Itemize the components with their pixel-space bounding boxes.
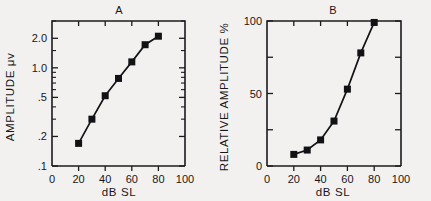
data-point-marker (371, 19, 378, 26)
panel-a-x-tick-label: 40 (99, 173, 111, 185)
data-point-marker (331, 118, 338, 125)
panel-b-x-axis-title: dB SL (316, 186, 350, 198)
panel-b-x-tick-labels: 020406080100 (264, 173, 410, 185)
panel-a-tickmarks (52, 21, 185, 171)
panel-b-y-axis-title: RELATIVE AMPLITUDE % (218, 23, 230, 172)
panel-b-y-tick-labels: 050100 (244, 15, 262, 172)
panel-a-x-tick-label: 0 (49, 173, 55, 185)
panel-a-y-axis-title: AMPLITUDE μv (4, 53, 16, 142)
panel-a-title: A (115, 4, 123, 16)
data-point-marker (304, 147, 311, 154)
panel-a-y-tick-label: .2 (38, 130, 47, 142)
data-point-marker (344, 86, 351, 93)
panel-a-y-tick-labels: .1.2.51.02.0 (32, 32, 47, 172)
panel-a-plot: A AMPLITUDE μv dB SL 020406080100 .1.2.5… (0, 0, 215, 201)
panel-b-tickmarks (267, 21, 401, 171)
data-point-marker (155, 33, 162, 40)
panel-b-x-tick-label: 80 (368, 173, 380, 185)
panel-a-y-tick-label: .1 (38, 160, 47, 172)
panel-b-x-tick-label: 100 (392, 173, 410, 185)
panel-a-x-tick-label: 80 (152, 173, 164, 185)
panel-b-plot: B RELATIVE AMPLITUDE % dB SL 02040608010… (215, 0, 431, 201)
panel-a-x-tick-label: 20 (72, 173, 84, 185)
panel-b-title: B (329, 4, 336, 16)
panel-b-data-series (290, 19, 377, 158)
panel-b-x-tick-label: 20 (288, 173, 300, 185)
panel-b-y-tick-label: 100 (244, 15, 262, 27)
panel-b-y-tick-label: 0 (256, 160, 262, 172)
panel-b-x-tick-label: 40 (314, 173, 326, 185)
panel-a-y-tick-label: 2.0 (32, 32, 47, 44)
panel-a-y-tick-label: 1.0 (32, 62, 47, 74)
data-point-marker (128, 58, 135, 65)
panel-a-axes (52, 21, 185, 166)
panel-a-data-series (75, 33, 162, 147)
panel-b-axes (267, 21, 401, 166)
panel-a-x-axis-title: dB SL (102, 186, 136, 198)
panel-a-x-tick-label: 60 (126, 173, 138, 185)
panel-a-x-tick-label: 100 (176, 173, 194, 185)
data-point-marker (102, 92, 109, 99)
panel-a-y-tick-label: .5 (38, 91, 47, 103)
data-point-marker (142, 41, 149, 48)
data-point-marker (317, 136, 324, 143)
panel-b-x-tick-label: 60 (341, 173, 353, 185)
data-point-marker (357, 49, 364, 56)
panel-a: A AMPLITUDE μv dB SL 020406080100 .1.2.5… (0, 0, 215, 201)
panel-b-x-tick-label: 0 (264, 173, 270, 185)
data-point-marker (75, 140, 82, 147)
data-point-marker (290, 151, 297, 158)
figure-container: A AMPLITUDE μv dB SL 020406080100 .1.2.5… (0, 0, 431, 201)
panel-a-x-tick-labels: 020406080100 (49, 173, 194, 185)
panel-b: B RELATIVE AMPLITUDE % dB SL 02040608010… (215, 0, 431, 201)
panel-b-y-tick-label: 50 (250, 88, 262, 100)
data-point-marker (88, 116, 95, 123)
data-point-marker (115, 75, 122, 82)
